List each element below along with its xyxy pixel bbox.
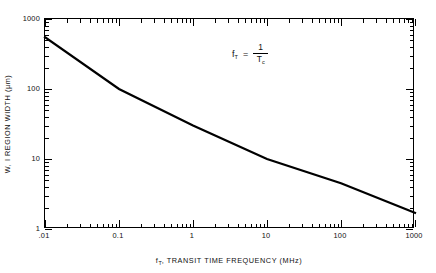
- axis-tick: [312, 224, 313, 228]
- axis-tick: [80, 224, 81, 228]
- axis-tick: [393, 19, 394, 23]
- axis-tick: [119, 19, 120, 26]
- axis-tick: [415, 220, 416, 227]
- axis-tick: [410, 208, 414, 209]
- axis-tick: [177, 224, 178, 228]
- axis-tick: [67, 224, 68, 228]
- axis-tick: [410, 47, 414, 48]
- axis-tick: [190, 19, 191, 23]
- axis-tick: [45, 56, 49, 57]
- equation-denominator: Tc: [254, 54, 268, 66]
- axis-tick: [410, 196, 414, 197]
- axis-tick: [45, 170, 49, 171]
- axis-tick: [406, 89, 413, 90]
- axis-tick: [141, 224, 142, 228]
- axis-tick: [119, 220, 120, 227]
- axis-tick: [410, 92, 414, 93]
- axis-tick: [45, 22, 49, 23]
- axis-tick: [406, 229, 413, 230]
- axis-tick: [186, 19, 187, 23]
- axis-tick: [45, 229, 52, 230]
- axis-tick: [376, 224, 377, 228]
- axis-tick: [410, 175, 414, 176]
- axis-tick: [410, 117, 414, 118]
- axis-tick: [45, 117, 49, 118]
- axis-tick: [45, 19, 52, 20]
- axis-tick: [45, 110, 49, 111]
- axis-tick: [215, 19, 216, 23]
- axis-tick: [363, 19, 364, 23]
- axis-tick: [67, 19, 68, 23]
- axis-tick: [90, 224, 91, 228]
- axis-tick: [103, 224, 104, 228]
- axis-tick: [228, 19, 229, 23]
- axis-tick: [215, 224, 216, 228]
- axis-tick: [404, 19, 405, 23]
- axis-tick: [334, 19, 335, 23]
- axis-tick: [45, 40, 49, 41]
- plot-area: [44, 18, 414, 228]
- axis-tick: [289, 19, 290, 23]
- axis-tick: [404, 224, 405, 228]
- figure-container: W, I REGION WIDTH (µm) .010.11101001000 …: [0, 0, 436, 273]
- axis-tick: [260, 224, 261, 228]
- axis-tick: [186, 224, 187, 228]
- axis-tick: [45, 162, 49, 163]
- axis-tick: [45, 175, 49, 176]
- axis-tick: [45, 196, 49, 197]
- axis-tick: [45, 105, 49, 106]
- axis-tick: [410, 56, 414, 57]
- axis-tick: [177, 19, 178, 23]
- axis-tick: [171, 19, 172, 23]
- data-series-line: [45, 19, 415, 229]
- axis-tick: [45, 92, 49, 93]
- equation-fraction: 1 Tc: [253, 43, 268, 66]
- axis-tick: [260, 19, 261, 23]
- axis-tick: [245, 19, 246, 23]
- axis-tick: [410, 30, 414, 31]
- x-tick-label: 0.1: [113, 231, 124, 240]
- axis-tick: [103, 19, 104, 23]
- axis-tick: [289, 224, 290, 228]
- x-tick-label: 1: [190, 231, 194, 240]
- y-axis-title: W, I REGION WIDTH (µm): [3, 75, 12, 174]
- axis-tick: [45, 100, 49, 101]
- y-tick-label: 1: [36, 224, 40, 233]
- axis-tick: [338, 19, 339, 23]
- axis-tick: [238, 224, 239, 228]
- axis-tick: [408, 224, 409, 228]
- axis-tick: [97, 19, 98, 23]
- equation-lhs-subscript: T: [235, 54, 238, 60]
- axis-tick: [386, 224, 387, 228]
- axis-tick: [302, 224, 303, 228]
- axis-tick: [45, 126, 49, 127]
- axis-tick: [410, 96, 414, 97]
- axis-tick: [251, 224, 252, 228]
- axis-tick: [45, 180, 49, 181]
- x-axis-title-rest: , TRANSIT TIME FREQUENCY (MHz): [162, 256, 302, 265]
- axis-tick: [376, 19, 377, 23]
- axis-tick: [256, 224, 257, 228]
- axis-tick: [410, 40, 414, 41]
- axis-tick: [410, 162, 414, 163]
- axis-tick: [410, 35, 414, 36]
- axis-tick: [45, 35, 49, 36]
- axis-tick: [45, 30, 49, 31]
- axis-tick: [45, 220, 46, 227]
- axis-tick: [116, 224, 117, 228]
- axis-tick: [164, 224, 165, 228]
- x-tick-label: .01: [39, 231, 50, 240]
- axis-tick: [412, 224, 413, 228]
- axis-tick: [171, 224, 172, 228]
- axis-tick: [302, 19, 303, 23]
- axis-tick: [325, 19, 326, 23]
- axis-tick: [267, 220, 268, 227]
- axis-tick: [393, 224, 394, 228]
- axis-tick: [410, 105, 414, 106]
- axis-tick: [193, 19, 194, 26]
- axis-tick: [410, 126, 414, 127]
- equation-operator: =: [242, 49, 249, 59]
- axis-tick: [410, 170, 414, 171]
- axis-tick: [386, 19, 387, 23]
- axis-tick: [410, 138, 414, 139]
